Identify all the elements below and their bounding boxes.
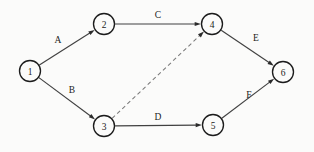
node-3-label: 3 <box>102 122 107 132</box>
diagram-canvas: 123456 ABCDEF <box>0 0 314 152</box>
edge-label-b: B <box>69 85 75 95</box>
edge-label-a: A <box>55 35 62 45</box>
edge-label-e: E <box>253 33 259 43</box>
edge-label-f: F <box>246 90 251 100</box>
edge-b-line <box>39 78 91 117</box>
node-5-label: 5 <box>211 121 216 131</box>
edge-e-arrowhead <box>267 61 273 66</box>
edge-c-arrowhead <box>195 22 201 26</box>
edge-f-line <box>222 82 270 118</box>
edge-label-d: D <box>155 112 162 122</box>
edge-a-line <box>39 33 90 65</box>
node-1-label: 1 <box>28 67 33 77</box>
edge-d-arrowhead <box>196 123 202 127</box>
node-4[interactable]: 4 <box>202 14 223 35</box>
edge-dashed-line <box>112 35 200 118</box>
node-2-label: 2 <box>102 20 107 30</box>
node-1[interactable]: 1 <box>20 61 41 82</box>
edge-d-line <box>115 125 197 126</box>
edge-labels-layer: ABCDEF <box>55 10 260 122</box>
node-6-label: 6 <box>281 68 286 78</box>
edge-e-line <box>221 30 269 63</box>
node-6[interactable]: 6 <box>273 62 294 83</box>
node-4-label: 4 <box>210 20 215 30</box>
node-3[interactable]: 3 <box>94 116 115 137</box>
graph-svg: 123456 ABCDEF <box>0 0 314 152</box>
node-5[interactable]: 5 <box>203 115 224 136</box>
edge-a-arrowhead <box>88 30 94 35</box>
node-2[interactable]: 2 <box>94 14 115 35</box>
edge-label-c: C <box>155 10 161 20</box>
